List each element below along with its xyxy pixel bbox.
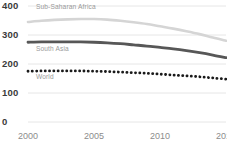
x-tick-label-2010: 2010: [140, 132, 180, 141]
line-chart: 0100200300400 2000200520102015 Sub-Sahar…: [0, 0, 227, 152]
series-label-world: World: [36, 74, 54, 81]
y-tick-label-200: 200: [2, 59, 18, 69]
series-label-south-asia: South Asia: [36, 46, 69, 53]
y-tick-label-100: 100: [2, 88, 18, 98]
chart-plot-area: [0, 0, 227, 152]
x-tick-label-2005: 2005: [74, 132, 114, 141]
x-tick-label-2015: 2015: [206, 132, 227, 141]
series-line-sub-saharan-africa: [28, 19, 226, 41]
y-tick-label-400: 400: [2, 1, 18, 11]
gridlines: [28, 6, 226, 122]
y-tick-label-300: 300: [2, 30, 18, 40]
y-tick-label-0: 0: [2, 117, 7, 127]
x-tick-label-2000: 2000: [8, 132, 48, 141]
series-line-world: [28, 71, 226, 79]
series-label-sub-saharan-africa: Sub-Saharan Africa: [36, 4, 96, 11]
